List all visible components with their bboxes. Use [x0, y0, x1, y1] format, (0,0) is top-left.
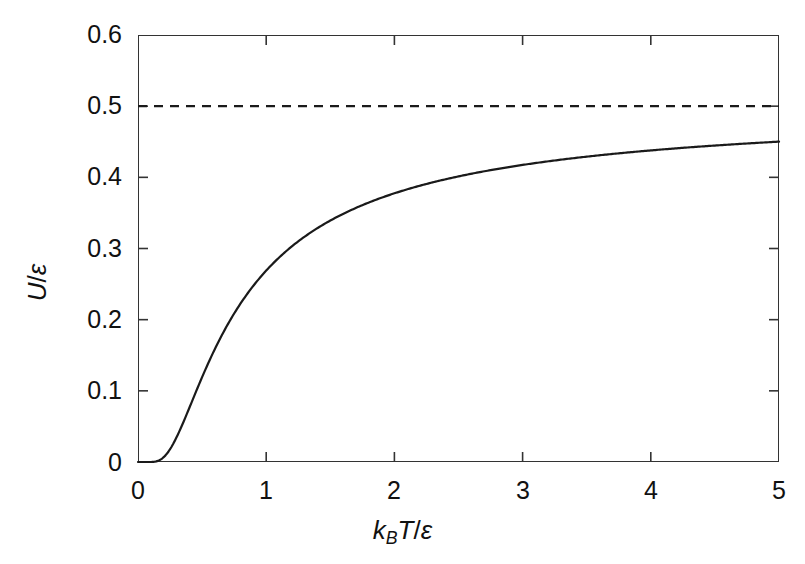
- x-tick-label: 2: [387, 478, 401, 503]
- x-axis-slash: /: [414, 515, 421, 545]
- x-axis-title-text: kBT/ε: [373, 515, 432, 545]
- y-tick-label: 0.4: [87, 164, 122, 189]
- x-tick-label: 4: [644, 478, 658, 503]
- tick-marks: [138, 35, 779, 462]
- x-axis-subscript-B: B: [386, 528, 398, 548]
- x-tick-label-group: 0 1 2 3 4 5: [0, 478, 805, 518]
- x-tick-label: 1: [259, 478, 273, 503]
- x-axis-title: kBT/ε: [0, 515, 805, 549]
- y-tick-label: 0.5: [87, 93, 122, 118]
- plot-svg: [138, 35, 779, 462]
- y-tick-label: 0.3: [87, 236, 122, 261]
- x-axis-symbol-k: k: [373, 515, 386, 545]
- plot-area: [138, 35, 779, 462]
- x-tick-label: 3: [516, 478, 530, 503]
- y-tick-label: 0.1: [87, 378, 122, 403]
- data-curve: [138, 142, 779, 462]
- figure-canvas: U/ε 0.6 0.5 0.4 0.3 0.2 0.1 0 0 1 2 3 4 …: [0, 0, 805, 564]
- y-tick-label: 0.6: [87, 22, 122, 47]
- x-tick-label: 0: [131, 478, 145, 503]
- y-tick-label: 0: [108, 450, 122, 475]
- y-tick-label: 0.2: [87, 307, 122, 332]
- x-tick-label: 5: [772, 478, 786, 503]
- x-axis-symbol-epsilon: ε: [421, 515, 432, 545]
- x-axis-symbol-T: T: [398, 515, 414, 545]
